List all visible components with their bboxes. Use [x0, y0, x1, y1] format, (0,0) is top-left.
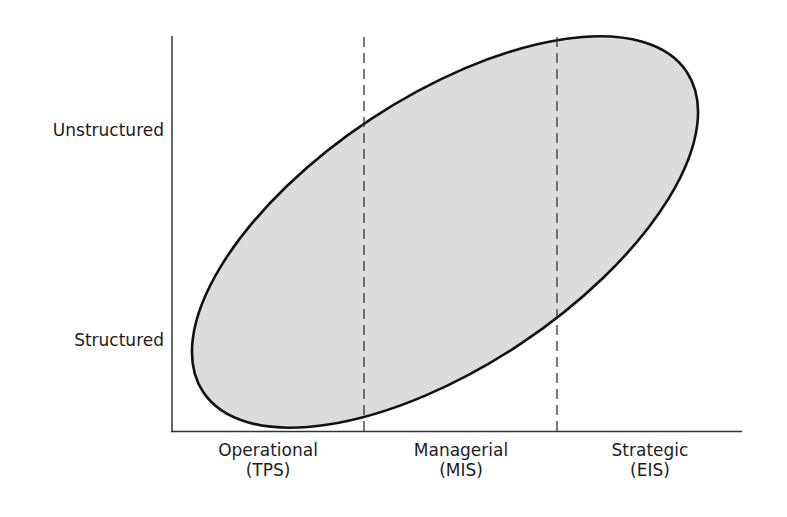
x-label-strategic-title: Strategic	[550, 440, 750, 460]
x-label-operational: Operational (TPS)	[168, 440, 368, 480]
x-label-operational-title: Operational	[168, 440, 368, 460]
y-label-unstructured: Unstructured	[53, 120, 164, 140]
x-label-operational-abbr: (TPS)	[168, 460, 368, 480]
x-label-managerial-title: Managerial	[361, 440, 561, 460]
x-label-strategic-abbr: (EIS)	[550, 460, 750, 480]
y-label-structured: Structured	[74, 330, 164, 350]
x-label-managerial: Managerial (MIS)	[361, 440, 561, 480]
x-label-managerial-abbr: (MIS)	[361, 460, 561, 480]
decision-region-ellipse	[129, 0, 762, 505]
x-label-strategic: Strategic (EIS)	[550, 440, 750, 480]
